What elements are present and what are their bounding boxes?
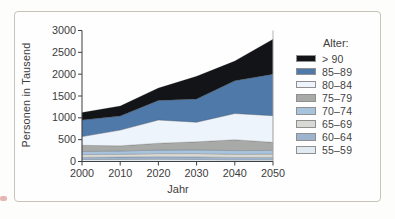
scan-artifact-red-mark: [0, 196, 7, 201]
legend-items: > 9085–8980–8475–7970–7465–6960–6455–59: [296, 52, 352, 157]
legend-item-65–69: 65–69: [296, 117, 352, 130]
x-tick-label: 2040: [223, 167, 247, 179]
legend-item->90: > 90: [296, 52, 352, 65]
x-tick-label: 2000: [70, 167, 94, 179]
y-tick-label: 0: [70, 155, 76, 167]
legend-label: 60–64: [322, 131, 352, 143]
legend-swatch: [296, 94, 316, 102]
legend-label: 85–89: [322, 66, 352, 78]
legend-swatch: [296, 81, 316, 89]
legend-label: 80–84: [322, 79, 352, 91]
legend-swatch: [296, 146, 316, 154]
legend-label: > 90: [322, 53, 344, 65]
legend-swatch: [296, 133, 316, 141]
x-tick-label: 2020: [146, 167, 170, 179]
legend-title: Alter:: [323, 37, 352, 49]
x-tick-label: 2030: [185, 167, 209, 179]
legend-swatch: [296, 120, 316, 128]
legend-label: 70–74: [322, 105, 352, 117]
legend-swatch: [296, 55, 316, 63]
page: 0500100015002000250030002000201020202030…: [0, 0, 395, 219]
x-tick-label: 2010: [108, 167, 132, 179]
legend-label: 65–69: [322, 118, 352, 130]
legend-swatch: [296, 68, 316, 76]
legend-item-60–64: 60–64: [296, 131, 352, 144]
y-tick-label: 3000: [52, 24, 76, 36]
legend-item-75–79: 75–79: [296, 91, 352, 104]
y-tick-label: 500: [58, 133, 76, 145]
legend: Alter: > 9085–8980–8475–7970–7465–6960–6…: [296, 37, 352, 157]
x-axis-title: Jahr: [167, 183, 188, 195]
legend-item-85–89: 85–89: [296, 65, 352, 78]
y-axis-title: Personen in Tausend: [20, 42, 32, 147]
y-tick-label: 2500: [52, 46, 76, 58]
legend-item-70–74: 70–74: [296, 104, 352, 117]
legend-label: 55–59: [322, 144, 352, 156]
legend-swatch: [296, 107, 316, 115]
legend-label: 75–79: [322, 92, 352, 104]
x-tick-label: 2050: [261, 167, 285, 179]
legend-item-80–84: 80–84: [296, 78, 352, 91]
y-tick-label: 1000: [52, 111, 76, 123]
y-tick-label: 2000: [52, 68, 76, 80]
legend-item-55–59: 55–59: [296, 144, 352, 157]
y-tick-label: 1500: [52, 90, 76, 102]
